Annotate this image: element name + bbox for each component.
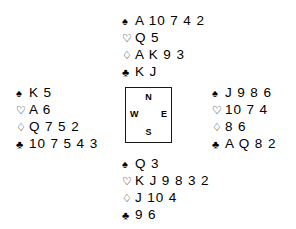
east-diamond-cards: 8 6 xyxy=(225,118,246,135)
west-club-cards: 10 7 5 4 3 xyxy=(29,135,98,152)
diamond-icon: ♢ xyxy=(16,119,29,136)
spade-icon: ♠ xyxy=(122,13,135,30)
compass-label-south: S xyxy=(126,128,171,137)
north-club-cards: K J xyxy=(135,63,157,80)
diamond-icon: ♢ xyxy=(122,190,135,207)
east-heart-line: ♡ 10 7 4 xyxy=(212,101,276,118)
south-spade-cards: Q 3 xyxy=(135,155,159,172)
north-spade-cards: A 10 7 4 2 xyxy=(135,12,205,29)
club-icon: ♣ xyxy=(212,136,225,153)
heart-icon: ♡ xyxy=(16,102,29,119)
east-heart-cards: 10 7 4 xyxy=(225,101,268,118)
west-club-line: ♣ 10 7 5 4 3 xyxy=(16,135,98,152)
south-club-cards: 9 6 xyxy=(135,206,156,223)
heart-icon: ♡ xyxy=(122,30,135,47)
diamond-icon: ♢ xyxy=(122,47,135,64)
east-diamond-line: ♢ 8 6 xyxy=(212,118,276,135)
east-club-cards: A Q 8 2 xyxy=(225,135,276,152)
hand-north: ♠ A 10 7 4 2 ♡ Q 5 ♢ A K 9 3 ♣ K J xyxy=(122,12,205,80)
north-diamond-line: ♢ A K 9 3 xyxy=(122,46,205,63)
south-diamond-line: ♢ J 10 4 xyxy=(122,189,209,206)
south-heart-line: ♡ K J 9 8 3 2 xyxy=(122,172,209,189)
compass-label-west: W xyxy=(130,110,139,119)
club-icon: ♣ xyxy=(122,207,135,224)
west-spade-line: ♠ K 5 xyxy=(16,84,98,101)
hand-east: ♠ J 9 8 6 ♡ 10 7 4 ♢ 8 6 ♣ A Q 8 2 xyxy=(212,84,276,152)
west-heart-cards: A 6 xyxy=(29,101,51,118)
east-spade-cards: J 9 8 6 xyxy=(225,84,272,101)
club-icon: ♣ xyxy=(122,64,135,81)
compass-label-east: E xyxy=(161,110,167,119)
south-diamond-cards: J 10 4 xyxy=(135,189,177,206)
hand-south: ♠ Q 3 ♡ K J 9 8 3 2 ♢ J 10 4 ♣ 9 6 xyxy=(122,155,209,223)
west-heart-line: ♡ A 6 xyxy=(16,101,98,118)
north-spade-line: ♠ A 10 7 4 2 xyxy=(122,12,205,29)
spade-icon: ♠ xyxy=(212,85,225,102)
club-icon: ♣ xyxy=(16,136,29,153)
north-heart-cards: Q 5 xyxy=(135,29,159,46)
bridge-deal-diagram: ♠ A 10 7 4 2 ♡ Q 5 ♢ A K 9 3 ♣ K J ♠ K 5… xyxy=(0,0,296,229)
east-spade-line: ♠ J 9 8 6 xyxy=(212,84,276,101)
east-club-line: ♣ A Q 8 2 xyxy=(212,135,276,152)
south-club-line: ♣ 9 6 xyxy=(122,206,209,223)
heart-icon: ♡ xyxy=(122,173,135,190)
south-spade-line: ♠ Q 3 xyxy=(122,155,209,172)
compass-box: N W E S xyxy=(125,87,172,143)
north-heart-line: ♡ Q 5 xyxy=(122,29,205,46)
hand-west: ♠ K 5 ♡ A 6 ♢ Q 7 5 2 ♣ 10 7 5 4 3 xyxy=(16,84,98,152)
north-diamond-cards: A K 9 3 xyxy=(135,46,185,63)
south-heart-cards: K J 9 8 3 2 xyxy=(135,172,209,189)
west-diamond-line: ♢ Q 7 5 2 xyxy=(16,118,98,135)
spade-icon: ♠ xyxy=(122,156,135,173)
diamond-icon: ♢ xyxy=(212,119,225,136)
north-club-line: ♣ K J xyxy=(122,63,205,80)
west-spade-cards: K 5 xyxy=(29,84,52,101)
west-diamond-cards: Q 7 5 2 xyxy=(29,118,80,135)
compass-label-north: N xyxy=(126,93,171,102)
spade-icon: ♠ xyxy=(16,85,29,102)
heart-icon: ♡ xyxy=(212,102,225,119)
